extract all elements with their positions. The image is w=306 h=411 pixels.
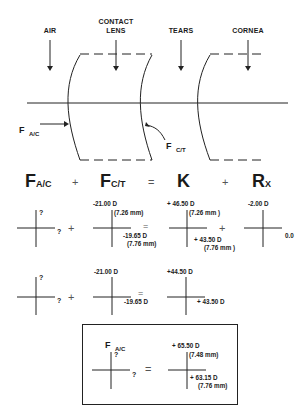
equation-plus-1: + <box>72 176 78 188</box>
f-subscript: C/T <box>176 147 186 153</box>
equation-equals: = <box>148 176 154 188</box>
result-horizontal-radius: (7.76 mm) <box>198 382 227 389</box>
f-symbol: F <box>105 340 111 350</box>
row2-fac-horizontal: ? <box>57 297 61 304</box>
result-equals: = <box>145 363 151 375</box>
row1-fac-horizontal: ? <box>57 228 61 235</box>
cornea-label: CORNEA <box>228 27 268 35</box>
term-symbol: F <box>100 171 111 191</box>
row1-plus-2: + <box>219 222 225 234</box>
term-subscript: X <box>265 179 271 189</box>
row2-sum-vertical: +44.50 D <box>167 268 193 275</box>
result-vertical-radius: (7.48 mm) <box>189 351 218 358</box>
equation-term-fct: FC/T <box>100 172 126 193</box>
row1-rx-horizontal: 0.0 <box>285 232 294 239</box>
row1-k-vertical-radius: (7.26 mm ) <box>189 209 220 216</box>
row1-k-horizontal: + 43.50 D <box>194 236 221 243</box>
equation-term-k: K <box>177 172 190 190</box>
result-box-title: F A/C <box>105 334 125 352</box>
row2-sum-horizontal: + 43.50 D <box>197 298 224 305</box>
surface-label-contact-tears: F C/T <box>166 135 186 153</box>
row2-fct-horizontal: -19.65 D <box>124 298 148 305</box>
row1-k-horizontal-radius: (7.76 mm ) <box>204 244 235 251</box>
row1-fct-horizontal-radius: (7.76 mm) <box>127 240 156 247</box>
row1-plus: + <box>68 222 74 234</box>
term-symbol: R <box>252 171 265 191</box>
f-symbol: F <box>19 125 25 135</box>
row1-rx-vertical: -2.00 D <box>248 200 269 207</box>
term-subscript: A/C <box>36 179 52 189</box>
equation-plus-2: + <box>222 176 228 188</box>
row1-fct-vertical-radius: (7.26 mm) <box>114 209 143 216</box>
equation-term-fac: FA/C <box>25 172 52 193</box>
surface-label-air-contact: F A/C <box>19 119 39 137</box>
tears-label: TEARS <box>166 27 196 35</box>
row1-fct-horizontal: -19.65 D <box>123 232 147 239</box>
result-fac-horizontal: ? <box>132 371 136 378</box>
f-subscript: A/C <box>29 131 39 137</box>
term-symbol: F <box>25 171 36 191</box>
f-symbol: F <box>166 141 172 151</box>
row1-fac-vertical: ? <box>39 209 43 216</box>
result-horizontal: + 63.15 D <box>190 374 217 381</box>
contact-lens-label-line2: LENS <box>92 27 140 35</box>
row1-equals: = <box>143 221 148 231</box>
air-label: AIR <box>38 27 62 35</box>
result-vertical: + 65.50 D <box>172 342 199 349</box>
row2-fac-vertical: ? <box>39 274 43 281</box>
result-fac-vertical: ? <box>114 351 118 358</box>
row2-equals: = <box>138 288 143 298</box>
row1-k-vertical: + 46.50 D <box>167 200 194 207</box>
row2-fct-vertical: -21.00 D <box>94 268 118 275</box>
term-subscript: C/T <box>111 179 126 189</box>
row2-plus: + <box>68 291 74 303</box>
row1-fct-vertical: -21.00 D <box>93 200 117 207</box>
contact-lens-label-line1: CONTACT <box>92 18 140 26</box>
equation-term-rx: RX <box>252 172 271 193</box>
